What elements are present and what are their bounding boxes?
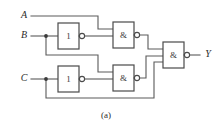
figure-caption: (a) xyxy=(101,110,111,120)
input-label-A: A xyxy=(20,9,28,20)
gate-label-nand-bottom: & xyxy=(120,73,127,83)
logic-circuit-figure: 11&&& ABCY (a) xyxy=(0,0,221,131)
inversion-bubble-icon-nand-output xyxy=(184,52,189,57)
gate-label-nand-output: & xyxy=(170,50,177,60)
wire-nand-bottom-out-to-nand-output xyxy=(140,56,163,78)
wire-nand-top-out-to-nand-output xyxy=(140,35,163,49)
junction-dot-c-tap xyxy=(44,77,48,81)
circuit-diagram: 11&&& ABCY (a) xyxy=(0,0,221,131)
inversion-bubble-icon-nand-bottom xyxy=(134,75,139,80)
input-label-B: B xyxy=(21,29,27,40)
gate-label-nand-top: & xyxy=(120,30,127,40)
gate-label-not-b: 1 xyxy=(66,31,71,41)
input-label-C: C xyxy=(21,72,28,83)
inversion-bubble-icon-not-b xyxy=(79,33,84,38)
gate-label-not-c: 1 xyxy=(66,74,71,84)
gates-group: 11&&& xyxy=(58,22,190,92)
output-label-Y: Y xyxy=(205,48,212,59)
junction-dot-b-tap xyxy=(44,34,48,38)
inversion-bubble-icon-nand-top xyxy=(134,32,139,37)
inversion-bubble-icon-not-c xyxy=(79,76,84,81)
